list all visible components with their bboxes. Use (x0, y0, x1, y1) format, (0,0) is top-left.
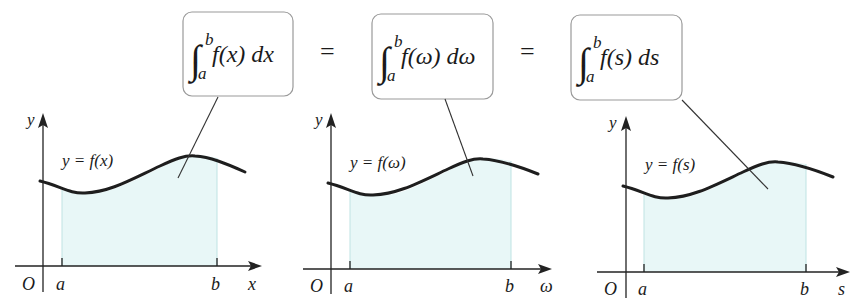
integrand: f(s) ds (600, 44, 659, 70)
upper-bound-label: b (800, 279, 809, 299)
lower-bound-label: a (56, 274, 65, 294)
x-axis-label: ω (540, 276, 553, 296)
origin-label: O (310, 276, 323, 296)
curve-label: y = f(s) (643, 155, 696, 174)
integral-variable-diagram: ∫ b a f(x) dx = ∫ b a f(ω) dω = ∫ b a f(… (0, 0, 857, 304)
lower-limit: a (387, 66, 396, 85)
svg-text:y: y (25, 110, 35, 129)
leader-line (682, 100, 768, 189)
origin-label: O (22, 274, 35, 294)
shaded-area (62, 155, 217, 266)
curve-label: y = f(x) (60, 151, 113, 170)
formula-box-omega: ∫ b a f(ω) dω (372, 14, 493, 99)
integrand: f(ω) dω (401, 43, 476, 69)
curve-label: y = f(ω) (348, 153, 406, 172)
formula-box-x: ∫ b a f(x) dx (183, 12, 293, 96)
graph-panel-s: y y = f(s) O a b s (597, 100, 850, 299)
integrand: f(x) dx (212, 41, 274, 67)
svg-text:y: y (607, 113, 617, 132)
equals-sign-2: = (520, 37, 535, 66)
equals-sign-1: = (320, 37, 335, 66)
lower-bound-label: a (344, 276, 353, 296)
upper-bound-label: b (211, 274, 220, 294)
shaded-area (350, 158, 511, 269)
x-axis-label: x (247, 274, 256, 294)
formula-box-s: ∫ b a f(s) ds (571, 15, 682, 100)
lower-limit: a (586, 67, 595, 86)
lower-limit: a (198, 64, 207, 83)
x-axis-label: s (838, 279, 845, 299)
graph-panel-omega: y y = f(ω) O a b ω (303, 99, 553, 296)
origin-label: O (604, 279, 617, 299)
graph-panel-x: y y = f(x) O a b x (15, 97, 262, 294)
shaded-area (644, 161, 806, 272)
upper-bound-label: b (505, 276, 514, 296)
lower-bound-label: a (638, 279, 647, 299)
svg-text:y: y (313, 110, 323, 129)
